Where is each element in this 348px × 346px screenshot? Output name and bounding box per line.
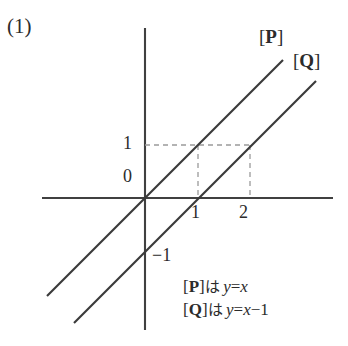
legend-var-y: y (226, 300, 234, 319)
legend-minus: − (251, 300, 261, 319)
legend-tag-q: [Q] (183, 300, 208, 319)
x-axis-tick-label-1: 1 (191, 203, 200, 221)
legend-q-letter: Q (189, 300, 202, 319)
x-axis-tick-label-2: 2 (239, 203, 248, 221)
curve-p-letter: P (265, 26, 277, 47)
curve-label-q: [Q] (293, 51, 320, 70)
legend-particle-p: は (205, 278, 220, 296)
legend-p-letter: P (189, 277, 199, 296)
legend-equation-p: y=x (223, 277, 248, 296)
legend-equals: = (231, 277, 241, 296)
figure-canvas: (1) [P] [Q] 1 0 1 2 −1 [P]は y=x [Q]は y=x… (0, 0, 348, 346)
legend-constant: 1 (260, 300, 269, 319)
legend-equals: = (234, 300, 244, 319)
legend-particle-q: は (208, 301, 223, 319)
legend-expr-q: x (243, 300, 251, 319)
bracket-close: ] (277, 26, 283, 47)
y-axis-tick-label-minus-1: −1 (152, 246, 171, 264)
equation-legend: [P]は y=x [Q]は y=x−1 (183, 275, 269, 322)
bracket-close: ] (314, 50, 320, 71)
legend-var-y: y (223, 277, 231, 296)
problem-number: (1) (7, 16, 32, 37)
legend-equation-q: y=x−1 (226, 300, 269, 319)
curve-q-letter: Q (299, 50, 314, 71)
legend-row-p: [P]は y=x (183, 275, 269, 298)
y-axis-tick-label-1: 1 (123, 134, 132, 152)
legend-expr-p: x (240, 277, 248, 296)
origin-label: 0 (123, 167, 132, 185)
curve-label-p: [P] (259, 27, 283, 46)
legend-row-q: [Q]は y=x−1 (183, 298, 269, 321)
legend-tag-p: [P] (183, 277, 205, 296)
